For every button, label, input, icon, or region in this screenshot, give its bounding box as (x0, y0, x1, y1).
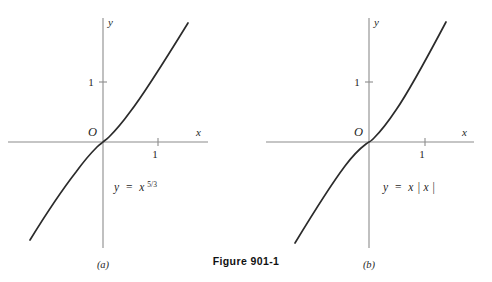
panel-a-origin-label: O (88, 125, 97, 139)
panel-b-x-tick-label-1: 1 (419, 148, 425, 160)
panel-b-origin-label: O (354, 125, 363, 139)
panel-b-x-axis-label: x (461, 126, 467, 138)
panel-b-equation-inner: x (423, 181, 430, 193)
panel-b-curve (295, 22, 446, 243)
panel-a-chart: x y O 1 1 y = x 5/3 (a) (0, 0, 246, 282)
panel-b-equation-base: x (407, 181, 414, 193)
panel-b-y-tick-label-1: 1 (354, 76, 360, 88)
panel-b-equation-bar-open: | (418, 181, 420, 194)
panel-a-x-axis-label: x (195, 126, 201, 138)
panel-a-y-axis-label: y (107, 16, 113, 28)
panel-b-equation-bar-close: | (433, 181, 435, 194)
panel-b-equation-operator: = (395, 181, 402, 193)
panel-b-equation-lhs: y (382, 181, 389, 194)
panel-a-equation: y = x 5/3 (113, 180, 157, 195)
panel-b-chart: x y O 1 1 y = x | x | (b) (246, 0, 492, 282)
panel-a-equation-base: x (138, 181, 145, 193)
panel-a-equation-exponent: 5/3 (147, 180, 157, 189)
panel-a-x-tick-label-1: 1 (152, 148, 158, 160)
panel-b-y-axis-label: y (373, 16, 379, 28)
figure-caption: Figure 901-1 (0, 255, 492, 267)
panel-b-equation: y = x | x | (382, 181, 435, 194)
panel-a-y-tick-label-1: 1 (88, 76, 94, 88)
figure-container: x y O 1 1 y = x 5/3 (a) x y O 1 (0, 0, 492, 282)
panel-a-equation-operator: = (126, 181, 133, 193)
panel-a-curve (30, 23, 188, 240)
panel-a-equation-lhs: y (113, 181, 120, 194)
